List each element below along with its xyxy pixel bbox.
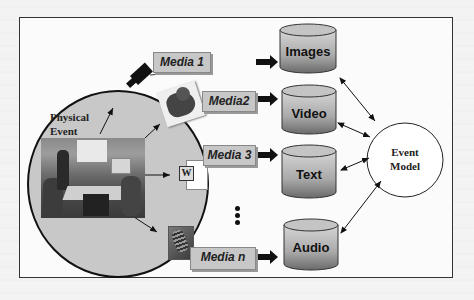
db-images-label: Images [272,44,344,59]
connector-media1 [150,73,175,75]
media-n-label[interactable]: Media n [190,247,256,270]
more-media-ellipsis [235,206,241,227]
db-audio-label: Audio [275,240,347,255]
db-video-label: Video [273,106,345,121]
media-2-label[interactable]: Media2 [202,91,256,112]
physical-event-label: Physical Event [50,110,89,138]
classroom-photo [41,138,145,218]
event-model-label: Event Model [385,145,425,173]
media-3-label[interactable]: Media 3 [203,145,256,166]
video-camera-icon [124,63,153,91]
media-1-label[interactable]: Media 1 [153,52,211,73]
db-text-label: Text [273,167,345,182]
media-to-db-arrows [256,55,278,264]
